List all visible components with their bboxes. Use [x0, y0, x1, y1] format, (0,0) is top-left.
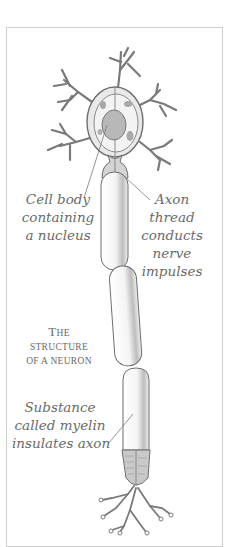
label-line: Substance	[12, 398, 108, 416]
label-line: a nucleus	[18, 226, 98, 244]
label-line: impulses	[140, 262, 204, 280]
myelin-segment-3	[123, 368, 149, 450]
label-line: insulates axon	[12, 434, 108, 452]
label-line: Cell body	[18, 190, 98, 208]
label-line: containing	[18, 208, 98, 226]
label-line: nerve	[140, 244, 204, 262]
label-line: thread	[140, 208, 204, 226]
cell-body	[87, 87, 143, 157]
axon-label: Axon thread conducts nerve impulses	[140, 190, 204, 280]
axon-terminals	[102, 486, 170, 532]
label-line: conducts	[140, 226, 204, 244]
label-line: called myelin	[12, 416, 108, 434]
axon-terminal-bulb	[122, 450, 150, 486]
myelin-segment-2	[109, 265, 143, 367]
myelin-label: Substance called myelin insulates axon	[12, 398, 108, 452]
cell-body-label: Cell body containing a nucleus	[18, 190, 98, 244]
title-line-2: STRUCTURE	[14, 340, 104, 354]
label-line: Axon	[140, 190, 204, 208]
terminal-knobs	[99, 498, 173, 535]
nucleus	[102, 110, 126, 140]
myelin-segment-1	[101, 172, 128, 270]
title-line-1: THE	[14, 325, 104, 340]
diagram-title: THE STRUCTURE OF A NEURON	[14, 325, 104, 368]
title-rest: HE	[56, 328, 69, 338]
title-line-3: OF A NEURON	[14, 354, 104, 368]
